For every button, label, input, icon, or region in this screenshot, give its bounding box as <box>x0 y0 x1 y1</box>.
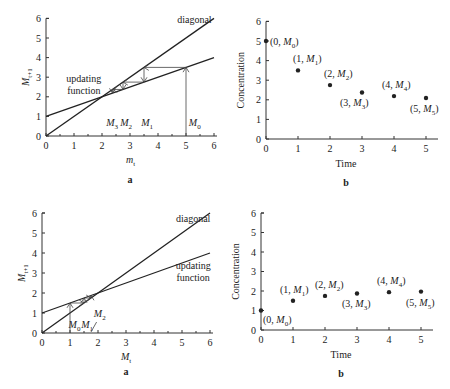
updating-function-label: updating <box>176 260 211 271</box>
y-tick-label: 2 <box>36 91 41 102</box>
data-point <box>355 291 359 295</box>
x-tick-label: 2 <box>323 334 328 345</box>
y-tick-label: 5 <box>36 33 41 44</box>
panel-label-a: a <box>128 174 133 185</box>
data-point <box>419 289 423 293</box>
point-label: (1, M1) <box>293 53 322 67</box>
x-tick-label: 3 <box>124 337 129 348</box>
y-tick-label: 1 <box>251 305 256 316</box>
y-axis-title-text: Mt+1 <box>16 264 30 283</box>
data-point <box>392 94 396 98</box>
point-label: (3, M3) <box>340 97 369 111</box>
y-tick-label: 6 <box>36 13 41 24</box>
m2-label: M2 <box>93 308 106 322</box>
x-tick-label: 5 <box>424 143 429 154</box>
m2-label: M2 <box>119 117 132 131</box>
y-tick-label: 1 <box>36 111 41 122</box>
figure: 01234560123456diagonalupdatingfunctionM3… <box>0 0 450 389</box>
chart-top-b: 0123450123456(0, M0)(1, M1)(2, M2)(3, M3… <box>235 16 439 188</box>
diagonal-label: diagonal <box>177 14 212 25</box>
data-point <box>323 294 327 298</box>
x-tick-label: 1 <box>68 337 73 348</box>
x-tick-label: 4 <box>387 334 392 345</box>
y-tick-label: 1 <box>256 114 261 125</box>
panel-label-b: b <box>343 177 349 188</box>
point-label: (5, M5) <box>410 103 439 117</box>
chart-bottom-b: 0123450123456(0, M0)(1, M1)(2, M2)(3, M3… <box>230 208 435 380</box>
x-tick-label: 6 <box>208 337 213 348</box>
panel-label-b: b <box>338 368 344 379</box>
y-tick-label: 5 <box>32 228 37 239</box>
y-tick-label: 3 <box>32 268 37 279</box>
y-tick-label: 3 <box>251 266 256 277</box>
x-tick-label: 1 <box>291 334 296 345</box>
y-tick-label: 0 <box>256 134 261 145</box>
y-tick-label: 4 <box>32 248 37 259</box>
point-label: (5, M5) <box>406 297 435 311</box>
y-tick-label: 1 <box>32 308 37 319</box>
data-point <box>264 39 268 43</box>
point-label: (3, M3) <box>342 298 371 312</box>
point-label: (2, M2) <box>324 68 353 82</box>
y-tick-label: 6 <box>256 16 261 27</box>
x-tick-label: 0 <box>44 140 49 151</box>
x-axis-title: Time <box>331 349 352 360</box>
y-tick-label: 6 <box>251 208 256 219</box>
x-tick-label: 2 <box>100 140 105 151</box>
y-tick-label: 5 <box>256 36 261 47</box>
y-tick-label: 0 <box>251 325 256 336</box>
point-label: (1, M1) <box>280 284 309 298</box>
y-tick-label: 0 <box>32 328 37 339</box>
y-tick-label: 2 <box>256 94 261 105</box>
m3-label: M3 <box>105 117 118 131</box>
data-point <box>424 96 428 100</box>
y-tick-label: 4 <box>256 55 261 66</box>
y-tick-label: 6 <box>32 208 37 219</box>
data-point <box>296 68 300 72</box>
x-tick-label: 3 <box>128 140 133 151</box>
x-tick-label: 5 <box>419 334 424 345</box>
y-axis-title: Concentration <box>235 52 246 109</box>
y-tick-label: 0 <box>36 131 41 142</box>
y-tick-label: 2 <box>251 286 256 297</box>
x-tick-label: 1 <box>72 140 77 151</box>
point-label: (4, M4) <box>382 79 411 93</box>
x-tick-label: 4 <box>392 143 397 154</box>
y-axis-title-text: Mt+1 <box>20 68 34 87</box>
y-tick-label: 2 <box>32 288 37 299</box>
chart-bottom-a: 01234560123456diagonalupdatingfunctionM0… <box>16 208 213 378</box>
updating-function-label: updating <box>66 73 101 84</box>
x-tick-label: 4 <box>152 337 157 348</box>
updating-function-label-2: function <box>177 272 210 283</box>
x-tick-label: 6 <box>212 140 217 151</box>
data-point <box>328 83 332 87</box>
point-label: (0, M0) <box>270 36 299 50</box>
x-tick-label: 1 <box>296 143 301 154</box>
point-label: (4, M4) <box>377 275 406 289</box>
chart-top-a: 01234560123456diagonalupdatingfunctionM3… <box>20 13 217 185</box>
y-axis-title: Mt+1 <box>20 68 34 87</box>
x-axis-title: mt <box>126 154 135 168</box>
m1-label: M1 <box>140 117 153 131</box>
y-tick-label: 4 <box>36 52 41 63</box>
y-axis-title: Mt+1 <box>16 264 30 283</box>
x-tick-label: 5 <box>184 140 189 151</box>
panel-label-a: a <box>124 366 129 377</box>
x-tick-label: 2 <box>96 337 101 348</box>
x-tick-label: 0 <box>40 337 45 348</box>
data-point <box>360 90 364 94</box>
x-tick-label: 2 <box>328 143 333 154</box>
x-tick-label: 3 <box>355 334 360 345</box>
updating-function-label-2: function <box>67 85 100 96</box>
diagonal-label: diagonal <box>176 213 211 224</box>
x-tick-label: 4 <box>156 140 161 151</box>
x-tick-label: 0 <box>264 143 269 154</box>
data-point <box>387 290 391 294</box>
x-tick-label: 3 <box>360 143 365 154</box>
y-tick-label: 3 <box>36 72 41 83</box>
data-point <box>259 308 263 312</box>
data-point <box>291 299 295 303</box>
y-tick-label: 5 <box>251 227 256 238</box>
y-tick-label: 3 <box>256 75 261 86</box>
x-axis-title: Time <box>336 158 357 169</box>
